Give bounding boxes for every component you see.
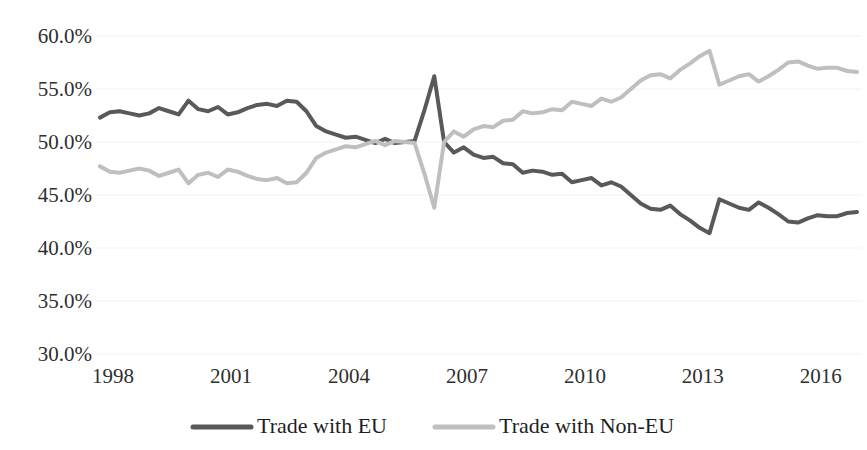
line-chart-plot: 30.0%35.0%40.0%45.0%50.0%55.0%60.0% 1998… xyxy=(0,0,867,450)
legend-label-trade-with-non-eu[interactable]: Trade with Non-EU xyxy=(499,413,674,438)
y-axis-tick-label: 35.0% xyxy=(38,289,92,313)
series-line-trade-with-non-eu xyxy=(100,51,857,208)
x-axis-tick-label: 2016 xyxy=(800,364,842,388)
gridlines-group xyxy=(96,36,862,354)
chart-legend: Trade with EUTrade with Non-EU xyxy=(193,413,674,438)
y-axis-tick-label: 30.0% xyxy=(38,342,92,366)
x-axis-tick-label: 1998 xyxy=(92,364,134,388)
y-axis-tick-label: 40.0% xyxy=(38,236,92,260)
y-axis-tick-label: 45.0% xyxy=(38,183,92,207)
chart-container: 30.0%35.0%40.0%45.0%50.0%55.0%60.0% 1998… xyxy=(0,0,867,450)
y-axis-tick-labels: 30.0%35.0%40.0%45.0%50.0%55.0%60.0% xyxy=(38,24,92,366)
y-axis-tick-label: 55.0% xyxy=(38,77,92,101)
x-axis-tick-label: 2001 xyxy=(210,364,252,388)
y-axis-tick-label: 60.0% xyxy=(38,24,92,48)
y-axis-tick-label: 50.0% xyxy=(38,130,92,154)
x-axis-tick-label: 2007 xyxy=(446,364,488,388)
series-line-trade-with-eu xyxy=(100,76,857,233)
x-axis-tick-label: 2013 xyxy=(682,364,724,388)
x-axis-tick-label: 2010 xyxy=(564,364,606,388)
x-axis-tick-labels: 1998200120042007201020132016 xyxy=(92,364,842,388)
x-axis-tick-label: 2004 xyxy=(328,364,371,388)
legend-label-trade-with-eu[interactable]: Trade with EU xyxy=(257,413,387,438)
